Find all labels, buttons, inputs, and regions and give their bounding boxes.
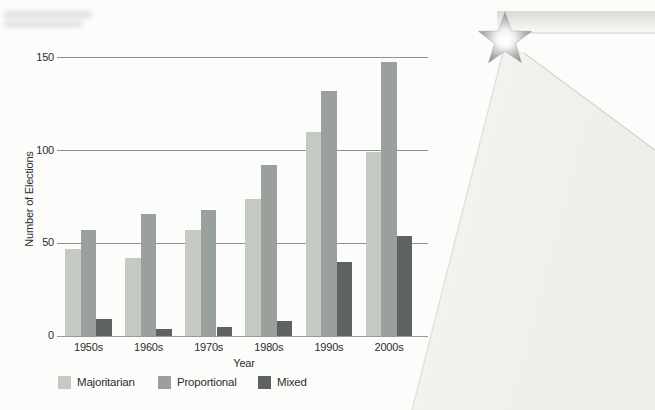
bar-majoritarian-1990s: [306, 132, 322, 336]
plot-area: 0501001501950s1960s1970s1980s1990s2000s: [0, 0, 470, 410]
y-tick-label: 100: [16, 144, 54, 156]
bar-majoritarian-1950s: [65, 249, 81, 336]
ray-edge-right: [524, 53, 655, 150]
legend: Majoritarian Proportional Mixed: [0, 375, 470, 393]
legend-item-proportional: Proportional: [158, 375, 237, 389]
x-tick-label: 1990s: [304, 341, 354, 353]
x-tick-label: 1950s: [64, 341, 114, 353]
bar-proportional-1980s: [261, 165, 277, 336]
bar-mixed-1980s: [277, 321, 293, 336]
legend-swatch-proportional: [158, 376, 171, 389]
bar-proportional-1970s: [201, 210, 217, 336]
legend-swatch-majoritarian: [58, 376, 71, 389]
bar-majoritarian-1980s: [245, 199, 261, 336]
legend-item-majoritarian: Majoritarian: [58, 375, 135, 389]
legend-swatch-mixed: [258, 376, 271, 389]
gridline-150: [57, 57, 428, 58]
bar-proportional-1960s: [141, 214, 157, 336]
bar-mixed-1990s: [337, 262, 353, 336]
bar-proportional-1990s: [321, 91, 337, 336]
legend-label: Mixed: [277, 376, 307, 388]
x-axis-title: Year: [194, 357, 294, 369]
x-tick-label: 2000s: [364, 341, 414, 353]
star-icon: [478, 12, 531, 63]
legend-label: Proportional: [177, 376, 237, 388]
bar-mixed-2000s: [397, 236, 413, 336]
bar-majoritarian-1960s: [125, 258, 141, 336]
y-tick-label: 50: [16, 236, 54, 248]
gridline-100: [57, 150, 428, 151]
x-axis-line: [57, 336, 428, 337]
bar-majoritarian-1970s: [185, 230, 201, 336]
x-tick-label: 1980s: [244, 341, 294, 353]
bar-chart: Number of Elections 0501001501950s1960s1…: [0, 0, 470, 410]
figure-page: Number of Elections 0501001501950s1960s1…: [0, 0, 655, 410]
bar-mixed-1950s: [96, 319, 112, 336]
y-tick-label: 0: [16, 329, 54, 341]
x-tick-label: 1960s: [124, 341, 174, 353]
bar-majoritarian-2000s: [366, 152, 382, 336]
top-band: [497, 11, 655, 33]
bar-proportional-2000s: [381, 62, 397, 336]
y-tick-label: 150: [16, 51, 54, 63]
legend-item-mixed: Mixed: [258, 375, 307, 389]
bar-proportional-1950s: [81, 230, 97, 336]
x-tick-label: 1970s: [184, 341, 234, 353]
legend-label: Majoritarian: [77, 376, 135, 388]
